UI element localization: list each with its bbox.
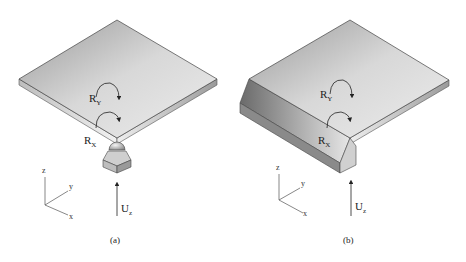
force-label-b: Uz bbox=[355, 200, 366, 212]
rotation-x-label-a: RX bbox=[84, 134, 96, 146]
panel-b-plate bbox=[240, 20, 449, 173]
caption-b: (b) bbox=[343, 235, 354, 245]
force-label-a: Uz bbox=[121, 202, 132, 214]
axis-z-label-a: z bbox=[42, 166, 46, 175]
axis-z-label-b: z bbox=[276, 163, 280, 172]
panel-a-plate bbox=[19, 20, 217, 144]
axes-triad-a bbox=[45, 177, 68, 215]
axis-y-label-b: y bbox=[301, 179, 305, 188]
rotation-x-label-b: RX bbox=[318, 134, 330, 146]
rotation-y-label-a: RY bbox=[89, 92, 101, 104]
axes-triad-b bbox=[279, 174, 303, 213]
figure-canvas bbox=[0, 0, 466, 262]
panel-a-support bbox=[103, 142, 131, 173]
axis-x-label-a: x bbox=[69, 212, 73, 221]
axis-y-label-a: y bbox=[69, 182, 73, 191]
caption-a: (a) bbox=[110, 235, 120, 245]
rotation-y-label-b: RY bbox=[320, 88, 332, 100]
axis-x-label-b: x bbox=[303, 209, 307, 218]
